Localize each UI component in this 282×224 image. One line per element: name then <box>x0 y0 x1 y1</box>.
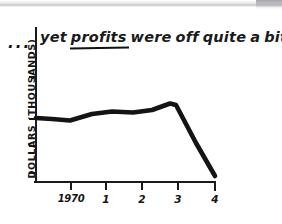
x-tick-label-4: 4 <box>204 193 226 205</box>
x-axis-tick <box>70 182 72 190</box>
title-word-yet: yet <box>40 30 67 45</box>
x-tick-label-2: 2 <box>131 193 153 205</box>
x-axis-tick <box>177 182 179 190</box>
scan-artifact-corner <box>256 0 282 9</box>
title-word-profits-underlined: profits <box>71 30 127 46</box>
title-word-were: were <box>131 30 172 45</box>
y-axis-label: DOLLARS (THOUSANDS) <box>26 69 37 179</box>
x-tick-label-3: 3 <box>167 193 189 205</box>
x-axis-tick <box>105 182 107 190</box>
chart-figure: ... yet profits were off quite a bit ! D… <box>0 0 282 224</box>
scan-artifact-top <box>0 0 282 7</box>
x-axis-tick <box>214 182 216 191</box>
chart-title: yet profits were off quite a bit ! <box>40 30 278 56</box>
title-word-bit: bit <box>264 30 282 45</box>
x-axis-line <box>34 181 216 183</box>
title-word-quite: quite <box>203 30 246 45</box>
title-word-a: a <box>250 30 260 45</box>
data-series-profits-line <box>36 104 215 177</box>
x-tick-label-1: 1 <box>95 193 117 205</box>
x-axis-tick <box>141 182 143 190</box>
title-word-off: off <box>176 30 199 45</box>
x-tick-label-1970: 1970 <box>50 193 92 204</box>
